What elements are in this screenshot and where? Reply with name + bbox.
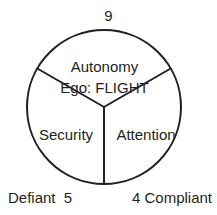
bottom-left-label: Defiant 5 bbox=[8, 190, 72, 205]
diagram-canvas bbox=[0, 0, 217, 215]
bottom-right-label: 4 Compliant bbox=[132, 190, 212, 205]
sector-top-subtitle-label: Ego: FLIGHT bbox=[0, 80, 209, 95]
sector-lower-left-label: Security bbox=[30, 127, 102, 142]
sector-lower-right-label: Attention bbox=[107, 127, 185, 142]
enneagram-diagram: 9 Autonomy Ego: FLIGHT Security Attentio… bbox=[0, 0, 217, 215]
top-number-label: 9 bbox=[0, 8, 217, 23]
sector-top-title-label: Autonomy bbox=[0, 59, 209, 74]
